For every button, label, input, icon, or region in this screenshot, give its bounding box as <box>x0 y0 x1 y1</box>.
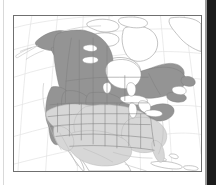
map-frame <box>13 15 202 172</box>
greenland-edge <box>169 17 201 51</box>
great-slave-lake <box>82 57 98 64</box>
bahamas <box>169 154 178 159</box>
right-edge-scan-artifact <box>207 0 216 185</box>
left-edge-scan-artifact <box>3 0 4 185</box>
north-america-map <box>14 16 201 171</box>
hispaniola <box>184 166 199 171</box>
cuba <box>151 161 182 169</box>
lake-michigan <box>129 103 137 118</box>
baffin-island <box>122 26 158 61</box>
arctic-archipelago <box>87 19 119 32</box>
figure-panel <box>0 0 216 185</box>
ellesmere-island <box>118 17 147 28</box>
james-bay <box>127 83 136 97</box>
